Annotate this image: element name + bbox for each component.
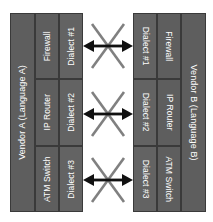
vendor-a-device-cell-1: Firewall: [35, 13, 59, 79]
bidirectional-arrow-icon: [83, 40, 133, 52]
vendor-b-dialect-cell-1: Dialect #1: [133, 13, 157, 79]
vendor-a-dialect-label-2: Dialect #2: [67, 93, 76, 132]
vendor-b-device-cell-1: Firewall: [157, 13, 181, 79]
vendor-b-dialect-label-3: Dialect #3: [141, 159, 150, 198]
vendor-a-device-cell-2: IP Router: [35, 79, 59, 145]
vendor-b-name-band: Vendor B (Language B): [181, 13, 206, 212]
vendor-b-device-cell-3: ATM Switch: [157, 146, 181, 212]
vendor-b-device-label-1: Firewall: [165, 31, 174, 61]
vendor-b-device-label-2: IP Router: [165, 94, 174, 131]
vendor-a-dialect-column: Dialect #1 Dialect #2 Dialect #3: [59, 13, 83, 212]
vendor-b-device-column: Firewall IP Router ATM Switch: [157, 13, 181, 212]
bidirectional-arrow-icon: [83, 108, 133, 120]
bidirectional-arrow-icon: [83, 174, 133, 186]
vendor-a-dialect-cell-3: Dialect #3: [59, 146, 83, 212]
connector-2: [83, 88, 133, 140]
vendor-a-device-column: Firewall IP Router ATM Switch: [35, 13, 59, 212]
vendor-b-dialect-label-2: Dialect #2: [141, 93, 150, 132]
vendor-b-device-label-3: ATM Switch: [165, 156, 174, 202]
interoperability-diagram: Vendor A (Language A) Firewall IP Router…: [0, 0, 213, 222]
vendor-b-name-label: Vendor B (Language B): [189, 64, 198, 160]
vendor-b-dialect-column: Dialect #1 Dialect #2 Dialect #3: [133, 13, 157, 212]
vendor-a-dialect-label-1: Dialect #1: [67, 27, 76, 66]
vendor-b-device-cell-2: IP Router: [157, 79, 181, 145]
vendor-a-device-cell-3: ATM Switch: [35, 146, 59, 212]
vendor-b-dialect-cell-3: Dialect #3: [133, 146, 157, 212]
connector-1: [83, 20, 133, 72]
vendor-a-name-label: Vendor A (Language A): [18, 65, 27, 160]
vendor-b-block: Dialect #1 Dialect #2 Dialect #3 Firewal…: [133, 13, 205, 212]
vendor-b-dialect-label-1: Dialect #1: [141, 27, 150, 66]
vendor-a-dialect-label-3: Dialect #3: [67, 159, 76, 198]
vendor-a-block: Vendor A (Language A) Firewall IP Router…: [10, 13, 83, 212]
vendor-a-device-label-3: ATM Switch: [43, 156, 52, 202]
vendor-a-dialect-cell-1: Dialect #1: [59, 13, 83, 79]
vendor-a-device-label-2: IP Router: [43, 94, 52, 131]
vendor-a-device-label-1: Firewall: [43, 31, 52, 61]
connector-3: [83, 154, 133, 206]
vendor-a-dialect-cell-2: Dialect #2: [59, 79, 83, 145]
vendor-b-dialect-cell-2: Dialect #2: [133, 79, 157, 145]
vendor-a-name-band: Vendor A (Language A): [10, 13, 35, 212]
